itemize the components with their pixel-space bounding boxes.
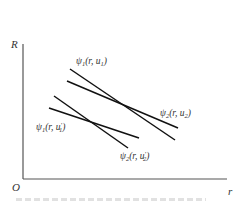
curve-label-psi2-u2: ψ2(r, u2) bbox=[160, 108, 191, 119]
origin-label: O bbox=[12, 181, 20, 193]
curve-label-psi1-u1: ψ1(r, u1) bbox=[76, 56, 107, 67]
curve-label-psi1-u1prime: ψ1(r, u′1) bbox=[36, 121, 65, 133]
diagram-canvas: R O r ψ1(r, u1)ψ2(r, u2)ψ1(r, u′1)ψ2(r, … bbox=[0, 0, 245, 204]
curve-line-psi2-u2 bbox=[67, 81, 178, 128]
curve-label-psi2-u2prime: ψ2(r, u′2) bbox=[120, 150, 149, 162]
caption-cutoff bbox=[16, 198, 206, 201]
x-axis-label: r bbox=[228, 185, 233, 197]
y-axis-label: R bbox=[10, 38, 18, 50]
curves-group: ψ1(r, u1)ψ2(r, u2)ψ1(r, u′1)ψ2(r, u′2) bbox=[36, 56, 191, 162]
